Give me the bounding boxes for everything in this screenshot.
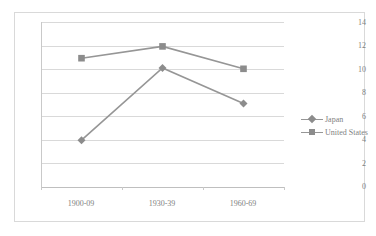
data-point-united-states-0 bbox=[78, 55, 85, 62]
series-line-japan bbox=[82, 68, 244, 140]
plot-area: 14 12 10 8 6 4 2 0 bbox=[15, 13, 366, 223]
diamond-marker-icon bbox=[308, 115, 316, 123]
legend-item-united-states: United States bbox=[301, 126, 368, 139]
x-tick-label-1900-09: 1900-09 bbox=[46, 199, 116, 208]
square-marker-icon bbox=[309, 129, 315, 135]
data-point-united-states-2 bbox=[240, 66, 247, 73]
chart-frame: 14 12 10 8 6 4 2 0 bbox=[14, 12, 365, 222]
x-tick-label-1930-39: 1930-39 bbox=[127, 199, 197, 208]
data-point-japan-2 bbox=[240, 99, 248, 107]
legend-swatch-japan bbox=[301, 114, 323, 125]
legend-label-united-states: United States bbox=[325, 128, 368, 137]
legend-item-japan: Japan bbox=[301, 113, 368, 126]
legend-label-japan: Japan bbox=[325, 115, 343, 124]
chart-legend: Japan United States bbox=[301, 113, 368, 139]
data-point-united-states-1 bbox=[159, 43, 166, 50]
legend-swatch-united-states bbox=[301, 127, 323, 138]
x-tick-label-1960-69: 1960-69 bbox=[208, 199, 278, 208]
